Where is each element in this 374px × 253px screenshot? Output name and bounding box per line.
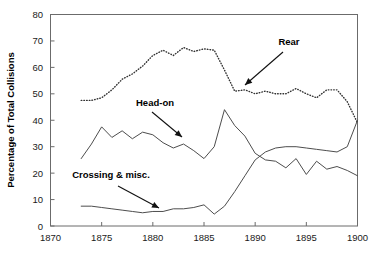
x-tick-label: 1895 <box>296 232 317 243</box>
collisions-line-chart: Percentage of Total Collisions 010203040… <box>0 0 374 253</box>
y-tick-label: 80 <box>32 9 43 20</box>
chart-container: Percentage of Total Collisions 010203040… <box>0 0 374 253</box>
series-annotation-label-rear: Rear <box>278 36 299 47</box>
y-tick-label: 40 <box>32 115 43 126</box>
x-tick-label: 1870 <box>40 232 61 243</box>
x-tick-label: 1890 <box>245 232 266 243</box>
series-line-crossing-misc <box>81 120 357 214</box>
y-tick-label: 70 <box>32 35 43 46</box>
series-annotation-label-crossing-misc: Crossing & misc. <box>72 169 150 180</box>
series-line-head-on <box>81 110 357 176</box>
y-axis-title: Percentage of Total Collisions <box>5 52 16 188</box>
series-line-rear <box>81 48 357 123</box>
x-tick-label: 1885 <box>193 232 214 243</box>
y-tick-label: 0 <box>38 221 43 232</box>
x-tick-label: 1875 <box>91 232 112 243</box>
y-tick-label: 20 <box>32 168 43 179</box>
y-tick-label: 50 <box>32 88 43 99</box>
plot-frame <box>51 15 358 227</box>
x-tick-label: 1880 <box>142 232 163 243</box>
y-tick-label: 60 <box>32 62 43 73</box>
series-annotation-label-head-on: Head-on <box>136 97 174 108</box>
y-tick-label: 10 <box>32 194 43 205</box>
data-series-group <box>81 48 357 215</box>
axis-tickmarks <box>51 15 358 227</box>
x-axis-tick-labels: 1870187518801885189018951900 <box>40 232 368 243</box>
x-tick-label: 1900 <box>347 232 368 243</box>
series-annotations: RearHead-onCrossing & misc. <box>72 36 300 208</box>
y-axis-tick-labels: 01020304050607080 <box>32 9 43 232</box>
series-annotation-arrow-rear <box>245 52 283 85</box>
y-tick-label: 30 <box>32 141 43 152</box>
